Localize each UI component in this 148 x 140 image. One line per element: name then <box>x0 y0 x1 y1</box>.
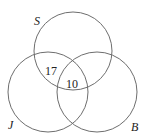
region-s-j-count: 17 <box>45 64 57 78</box>
venn-diagram: S J B 17 10 <box>0 0 148 140</box>
label-b: B <box>131 120 139 134</box>
label-j: J <box>8 118 14 132</box>
region-s-j-b-count: 10 <box>66 77 78 91</box>
label-s: S <box>34 14 40 28</box>
circle-b <box>57 52 137 132</box>
